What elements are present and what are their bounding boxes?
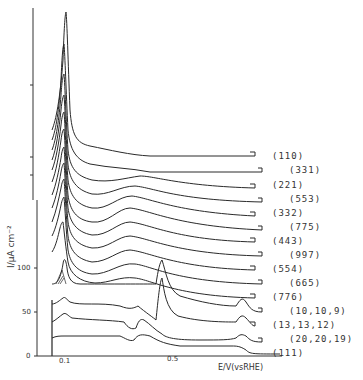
curve-553 <box>52 95 262 202</box>
curve-331 <box>52 44 262 172</box>
curves <box>52 12 280 354</box>
curve-20-20-19 <box>52 313 262 342</box>
label-110: (110) <box>272 151 304 161</box>
curve-110 <box>52 12 255 156</box>
label-221: (221) <box>272 180 304 190</box>
curve-554 <box>52 179 255 270</box>
label-776: (776) <box>272 292 304 302</box>
label-20-20-19: (20,20,19) <box>289 334 353 344</box>
ytick-100: 100 <box>17 264 30 272</box>
label-553: (553) <box>289 194 321 204</box>
label-997: (997) <box>289 250 321 260</box>
label-111: (111) <box>272 348 304 358</box>
ytick-50: 50 <box>22 308 31 316</box>
curve-776 <box>52 222 255 298</box>
label-665: (665) <box>289 278 321 288</box>
ytick-0: 0 <box>26 352 30 360</box>
label-554: (554) <box>272 264 304 274</box>
label-775: (775) <box>289 222 321 232</box>
curve-111 <box>52 335 280 354</box>
label-13-13-12: (13,13,12) <box>272 320 336 330</box>
xtick-0-1: 0.1 <box>59 357 70 365</box>
label-331: (331) <box>289 165 321 175</box>
label-332: (332) <box>272 208 304 218</box>
label-10-10-9: (10,10,9) <box>289 306 347 316</box>
label-443: (443) <box>272 236 304 246</box>
xtick-0-5: 0.5 <box>167 355 178 363</box>
x-axis-label: E/V(vsRHE) <box>218 363 263 372</box>
curve-221 <box>52 74 255 188</box>
y-axis-label: I/μA cm⁻² <box>6 225 16 268</box>
